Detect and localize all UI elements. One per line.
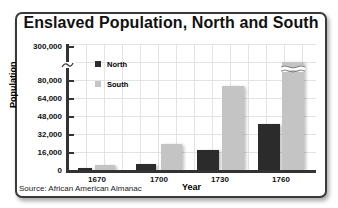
legend-label-north: North (107, 60, 127, 69)
y-tick-label: 64,000 (38, 94, 62, 103)
legend: North South (95, 58, 128, 98)
y-tick-label: 80,000 (38, 76, 62, 85)
legend-item-north: North (95, 58, 128, 70)
tick (69, 98, 74, 100)
legend-swatch-north (95, 61, 101, 67)
x-axis (66, 170, 316, 173)
bar-south-1700 (161, 144, 182, 170)
bar-north-1730 (197, 150, 219, 170)
tick (69, 134, 74, 136)
legend-swatch-south (95, 81, 101, 87)
y-tick-label: 300,000 (33, 42, 62, 51)
axis-break-icon (59, 62, 76, 68)
bar-north-1760 (258, 124, 280, 170)
bar-break-icon (281, 64, 305, 74)
x-tick-label: 1730 (200, 175, 240, 184)
y-tick-label: 16,000 (38, 148, 62, 157)
tick (69, 46, 74, 48)
y-axis-title: Population (8, 62, 18, 109)
bar-south-1760 (282, 62, 304, 170)
tick (69, 116, 74, 118)
bar-south-1730 (222, 86, 244, 170)
y-tick-label: 32,000 (38, 130, 62, 139)
tick (69, 152, 74, 154)
x-tick-label: 1760 (261, 175, 301, 184)
y-tick-label: 0 (58, 166, 62, 175)
legend-item-south: South (95, 78, 128, 90)
tick (69, 80, 74, 82)
chart-title: Enslaved Population, North and South (15, 14, 327, 32)
x-tick-label: 1670 (77, 175, 117, 184)
x-axis-title: Year (182, 182, 201, 192)
legend-label-south: South (107, 80, 128, 89)
x-tick-label: 1700 (139, 175, 179, 184)
y-tick-label: 48,000 (38, 112, 62, 121)
source-note: Source: African American Almanac (19, 184, 142, 193)
